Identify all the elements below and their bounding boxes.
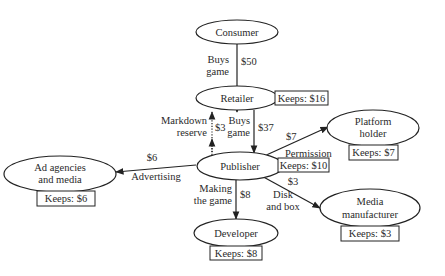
node-retailer-label: Retailer bbox=[220, 93, 254, 104]
node-ad-label-2: and media bbox=[38, 174, 82, 185]
node-media-label-1: Media bbox=[357, 196, 384, 207]
keeps-box-platform-holder: Keeps: $7 bbox=[349, 145, 398, 160]
edge-retailer-pub-label-1: Buys bbox=[228, 115, 250, 126]
edge-markdown-amount: $3 bbox=[215, 122, 226, 133]
node-platform-holder: Platform holder bbox=[327, 110, 419, 146]
keeps-ad-text: Keeps: $6 bbox=[45, 193, 87, 204]
edge-media-amount: $3 bbox=[288, 176, 299, 187]
edge-developer-amount: $8 bbox=[240, 189, 251, 200]
keeps-media-text: Keeps: $3 bbox=[349, 228, 391, 239]
edge-consumer-label-2: game bbox=[206, 66, 229, 77]
node-media-label-2: manufacturer bbox=[342, 209, 398, 220]
keeps-box-retailer: Keeps: $16 bbox=[275, 91, 328, 105]
node-publisher: Publisher bbox=[197, 152, 283, 180]
node-consumer-label: Consumer bbox=[215, 27, 259, 38]
keeps-box-publisher: Keeps: $10 bbox=[278, 158, 329, 172]
edge-retailer-pub-label-2: game bbox=[227, 127, 250, 138]
keeps-box-media-manufacturer: Keeps: $3 bbox=[341, 226, 399, 241]
edge-developer-label-1: Making bbox=[199, 183, 232, 194]
edge-ad-label: Advertising bbox=[131, 171, 181, 182]
edge-retailer-pub-amount: $37 bbox=[258, 122, 274, 133]
revenue-flow-diagram: Consumer Retailer Keeps: $16 Publisher K… bbox=[0, 0, 445, 276]
node-retailer: Retailer bbox=[196, 86, 278, 110]
edge-markdown-label-2: reserve bbox=[177, 127, 208, 138]
edge-media-label-1: Disk bbox=[273, 189, 294, 200]
edge-developer-label-2: the game bbox=[194, 195, 233, 206]
node-developer: Developer bbox=[194, 219, 278, 247]
keeps-retailer-text: Keeps: $16 bbox=[278, 93, 326, 104]
node-platform-label-1: Platform bbox=[355, 116, 392, 127]
edge-media-label-2: and box bbox=[266, 201, 300, 212]
node-publisher-label: Publisher bbox=[220, 161, 260, 172]
node-developer-label: Developer bbox=[214, 228, 258, 239]
keeps-platform-text: Keeps: $7 bbox=[352, 147, 394, 158]
keeps-box-ad-agencies: Keeps: $6 bbox=[37, 191, 95, 206]
keeps-publisher-text: Keeps: $10 bbox=[280, 160, 328, 171]
edge-markdown-label-1: Markdown bbox=[161, 115, 208, 126]
keeps-box-developer: Keeps: $8 bbox=[210, 246, 262, 260]
node-ad-label-1: Ad agencies bbox=[34, 162, 86, 173]
node-media-manufacturer: Media manufacturer bbox=[320, 189, 420, 227]
node-ad-agencies: Ad agencies and media bbox=[4, 156, 116, 192]
node-consumer: Consumer bbox=[196, 20, 278, 44]
node-platform-label-2: holder bbox=[360, 128, 387, 139]
edge-platform-amount: $7 bbox=[286, 131, 297, 142]
edge-ad-amount: $6 bbox=[147, 152, 158, 163]
keeps-developer-text: Keeps: $8 bbox=[215, 248, 257, 259]
edge-consumer-amount: $50 bbox=[241, 56, 257, 67]
edge-consumer-label-1: Buys bbox=[207, 54, 229, 65]
edge-platform-label: Permission bbox=[285, 148, 332, 159]
